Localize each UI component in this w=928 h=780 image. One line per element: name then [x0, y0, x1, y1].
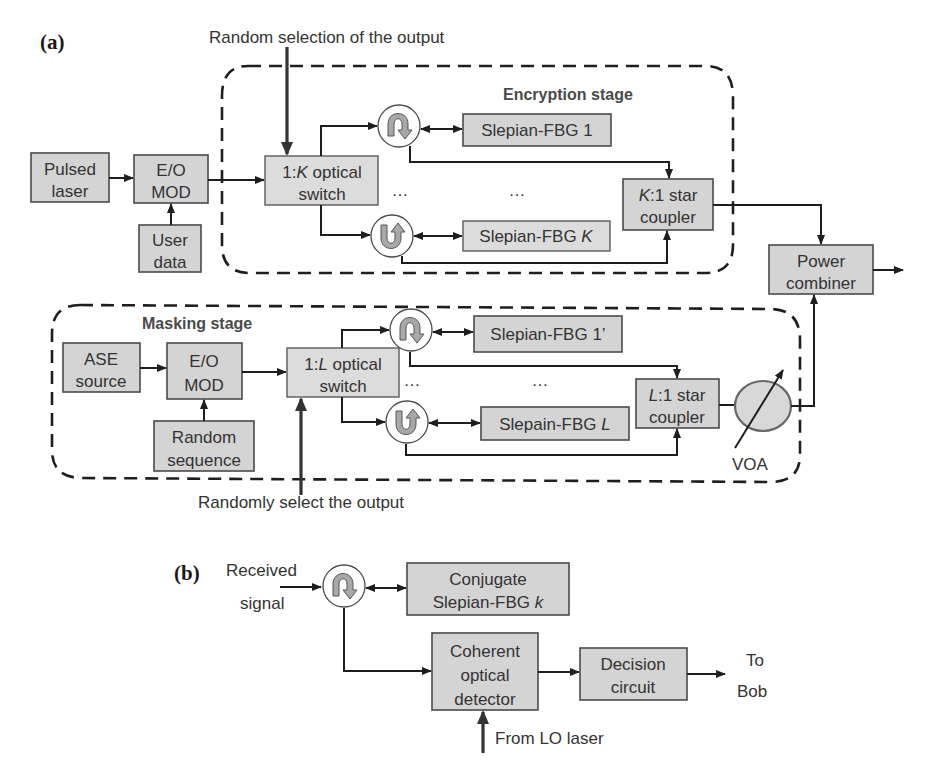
system-block-diagram: (a) Random selection of the output Encry… [0, 0, 928, 780]
circulator-icon [323, 565, 365, 607]
svg-text:K:1 star: K:1 star [639, 186, 698, 205]
pulsed-laser-block: Pulsed laser [31, 153, 109, 202]
svg-text:1:K optical: 1:K optical [282, 163, 361, 182]
svg-text:Random: Random [172, 428, 236, 447]
eo-modulator-block: E/O MOD [134, 155, 208, 203]
svg-text:E/O: E/O [156, 161, 185, 180]
panel-b-label: (b) [174, 561, 200, 585]
received-signal-label: Received [226, 561, 297, 580]
svg-text:coupler: coupler [640, 208, 696, 227]
power-combiner-block: Power combiner [769, 245, 873, 294]
svg-text:Slepain-FBG L: Slepain-FBG L [499, 415, 611, 434]
optical-switch-1l-block: 1:L optical switch [287, 348, 399, 397]
svg-text:Conjugate: Conjugate [449, 570, 527, 589]
svg-text:optical: optical [460, 666, 509, 685]
circulator-icon [386, 401, 428, 443]
lo-laser-label: From LO laser [495, 729, 604, 748]
to-bob-label-2: Bob [737, 682, 767, 701]
svg-text:data: data [153, 253, 187, 272]
svg-text:Slepian-FBG K: Slepian-FBG K [479, 227, 593, 246]
slepian-fbg-1prime-block: Slepian-FBG 1’ [474, 316, 622, 352]
svg-text:Slepian-FBG k: Slepian-FBG k [433, 593, 545, 612]
encryption-stage-title: Encryption stage [503, 86, 633, 103]
randomly-select-annotation: Randomly select the output [198, 493, 404, 512]
fbg-ellipsis: … [509, 181, 526, 200]
ase-source-block: ASE source [63, 343, 140, 392]
svg-text:ASE: ASE [84, 350, 118, 369]
coupler-to-combiner-wire [713, 205, 821, 244]
eo-modulator-2-block: E/O MOD [167, 343, 242, 399]
svg-text:detector: detector [454, 690, 516, 709]
star-coupler-l1-block: L:1 star coupler [636, 379, 719, 428]
slepian-fbg-k-block: Slepian-FBG K [463, 221, 610, 251]
switch-ellipsis: … [392, 181, 409, 200]
to-bob-label: To [746, 651, 764, 670]
circulator-icon [390, 309, 432, 351]
svg-text:E/O: E/O [189, 352, 218, 371]
fbg-l-ellipsis: … [532, 371, 549, 390]
svg-text:circuit: circuit [611, 678, 656, 697]
random-selection-annotation: Random selection of the output [209, 28, 445, 47]
circulator-icon [378, 105, 420, 147]
user-data-block: User data [139, 225, 201, 272]
svg-text:MOD: MOD [184, 376, 224, 395]
svg-text:laser: laser [52, 182, 89, 201]
switch-l-to-circ1-wire [342, 330, 389, 348]
svg-text:Pulsed: Pulsed [44, 160, 96, 179]
switch-l-to-circL-wire [342, 397, 385, 422]
optical-switch-1k-block: 1:K optical switch [265, 156, 378, 205]
conjugate-slepian-fbg-block: Conjugate Slepian-FBG k [407, 563, 569, 615]
svg-text:coupler: coupler [649, 408, 705, 427]
voa-to-combiner-wire [791, 295, 814, 406]
svg-text:L:1 star: L:1 star [649, 386, 706, 405]
svg-text:MOD: MOD [151, 183, 191, 202]
svg-text:User: User [152, 231, 188, 250]
svg-text:switch: switch [319, 377, 366, 396]
svg-text:combiner: combiner [786, 274, 856, 293]
circ-to-detector-wire [344, 608, 431, 671]
svg-text:1:L optical: 1:L optical [304, 355, 382, 374]
svg-text:Decision: Decision [600, 655, 665, 674]
svg-text:switch: switch [298, 185, 345, 204]
slepain-fbg-l-block: Slepain-FBG L [481, 407, 629, 440]
masking-stage-title: Masking stage [142, 315, 252, 332]
circulator-icon [371, 215, 413, 257]
switch-to-circ1-wire [321, 126, 377, 156]
coherent-optical-detector-block: Coherent optical detector [432, 633, 538, 710]
switch-l-ellipsis: … [404, 371, 421, 390]
svg-text:sequence: sequence [167, 451, 241, 470]
svg-text:Slepian-FBG 1: Slepian-FBG 1 [481, 121, 593, 140]
slepian-fbg-1-block: Slepian-FBG 1 [463, 114, 611, 146]
svg-text:source: source [75, 372, 126, 391]
svg-text:Coherent: Coherent [450, 642, 520, 661]
random-sequence-block: Random sequence [154, 421, 254, 471]
star-coupler-k1-block: K:1 star coupler [623, 179, 713, 230]
svg-text:Slepian-FBG 1’: Slepian-FBG 1’ [490, 325, 605, 344]
circ1-to-coupler-wire [410, 146, 669, 178]
voa-attenuator-icon [735, 370, 791, 448]
switch-to-circK-wire [321, 205, 370, 235]
svg-text:Power: Power [797, 252, 846, 271]
decision-circuit-block: Decision circuit [580, 648, 687, 700]
panel-a-label: (a) [40, 30, 65, 54]
received-signal-label-2: signal [240, 594, 284, 613]
voa-label: VOA [732, 455, 769, 474]
